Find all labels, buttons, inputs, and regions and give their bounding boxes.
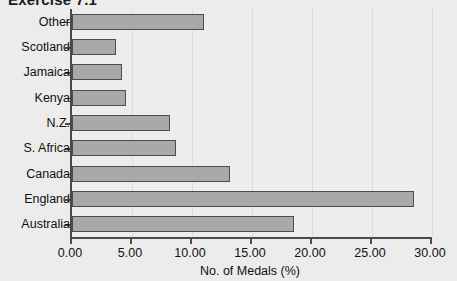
x-tick-label: 10.00 [174,246,205,260]
x-axis: No. of Medals (%) 0.005.0010.0015.0020.0… [70,239,430,281]
x-tick-mark [250,239,252,244]
x-tick-mark [310,239,312,244]
x-tick-mark [190,239,192,244]
y-tick-label: Jamaica [23,66,70,78]
x-tick-label: 0.00 [58,246,82,260]
y-tick-label: Scotland [21,41,70,53]
y-tick-label: Australia [21,218,70,230]
y-tick-label: Canada [26,168,70,180]
x-tick-label: 15.00 [234,246,265,260]
y-tick-label: Kenya [35,92,70,104]
x-tick-label: 25.00 [354,246,385,260]
x-tick-label: 5.00 [118,246,142,260]
chart-page: Exercise 7.1 Country OtherScotlandJamaic… [0,0,457,281]
y-tick-label: N.Z. [46,117,70,129]
y-axis: Country OtherScotlandJamaicaKenyaN.Z.S. … [0,9,457,237]
y-tick-label: England [24,193,70,205]
x-tick-mark [70,239,72,244]
chart-title: Exercise 7.1 [8,0,97,8]
y-tick-label: S. Africa [23,142,70,154]
x-tick-label: 30.00 [414,246,445,260]
x-tick-mark [430,239,432,244]
x-axis-title: No. of Medals (%) [200,264,300,278]
x-tick-mark [130,239,132,244]
y-tick-label: Other [39,16,70,28]
x-tick-label: 20.00 [294,246,325,260]
x-tick-mark [370,239,372,244]
